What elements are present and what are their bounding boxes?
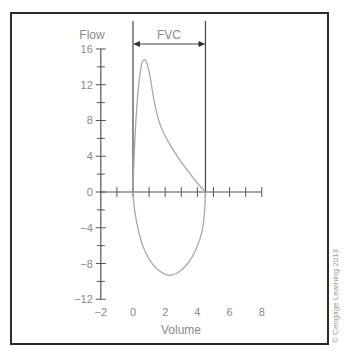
x-tick-label: 6	[227, 306, 233, 318]
y-tick-label: 0	[87, 186, 93, 198]
fvc-label: FVC	[157, 28, 181, 42]
arrow-right-icon	[198, 41, 205, 47]
inspiratory-curve	[133, 192, 205, 275]
arrow-left-icon	[133, 41, 140, 47]
y-tick-label: −4	[80, 222, 93, 234]
flow-volume-loop	[133, 60, 205, 276]
y-tick-label: −8	[80, 258, 93, 270]
y-tick-label: 8	[87, 114, 93, 126]
x-tick-label: −2	[95, 306, 108, 318]
y-tick-label: 4	[87, 150, 93, 162]
y-tick-label: −12	[74, 293, 93, 305]
x-tick-label: 8	[259, 306, 265, 318]
x-tick-label: 2	[162, 306, 168, 318]
y-tick-label: 16	[81, 43, 93, 55]
y-axis: 1612840−4−8−12	[74, 43, 106, 305]
x-axis-title: Volume	[161, 323, 201, 337]
x-tick-label: 0	[130, 306, 136, 318]
copyright-notice: © Cengage Learning 2013	[331, 248, 340, 343]
chart-frame	[11, 13, 328, 344]
flow-volume-chart: 1612840−4−8−12 −202468 Flow Volume FVC ©…	[0, 0, 344, 354]
expiratory-curve	[133, 60, 205, 192]
y-tick-label: 12	[81, 79, 93, 91]
x-axis: −202468	[95, 187, 265, 318]
fvc-annotation	[133, 21, 205, 197]
x-tick-label: 4	[194, 306, 200, 318]
y-axis-title: Flow	[79, 28, 105, 42]
